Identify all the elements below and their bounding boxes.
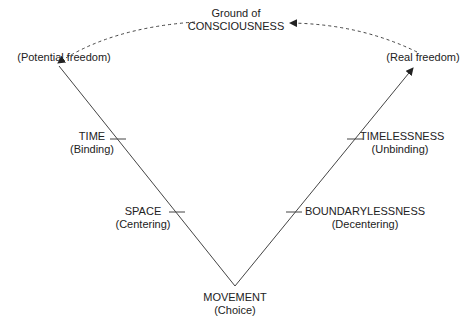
space-label: SPACE (Centering) xyxy=(112,205,174,231)
space-main: SPACE xyxy=(112,205,174,218)
dashed-arrow-right-to-ground xyxy=(290,23,417,52)
boundarylessness-main: BOUNDARYLESSNESS xyxy=(300,205,430,218)
real-freedom-label: (Real freedom) xyxy=(383,51,463,64)
space-sub: (Centering) xyxy=(112,218,174,231)
movement-sub: (Choice) xyxy=(195,304,275,317)
time-label: TIME (Binding) xyxy=(62,130,122,156)
diagram-lines xyxy=(0,0,466,325)
time-main: TIME xyxy=(62,130,122,143)
timelessness-main: TIMELESSNESS xyxy=(360,130,440,143)
ground-line1: Ground of xyxy=(176,7,296,20)
potential-freedom-label: (Potential freedom) xyxy=(14,51,114,64)
movement-main: MOVEMENT xyxy=(195,291,275,304)
movement-label: MOVEMENT (Choice) xyxy=(195,291,275,317)
ground-label: Ground of CONSCIOUSNESS xyxy=(176,7,296,33)
time-sub: (Binding) xyxy=(62,143,122,156)
left-line xyxy=(59,66,235,286)
right-arrow-line xyxy=(235,68,413,286)
timelessness-label: TIMELESSNESS (Unbinding) xyxy=(360,130,440,156)
boundarylessness-label: BOUNDARYLESSNESS (Decentering) xyxy=(300,205,430,231)
boundarylessness-sub: (Decentering) xyxy=(300,218,430,231)
timelessness-sub: (Unbinding) xyxy=(360,143,440,156)
ground-line2: CONSCIOUSNESS xyxy=(176,20,296,33)
